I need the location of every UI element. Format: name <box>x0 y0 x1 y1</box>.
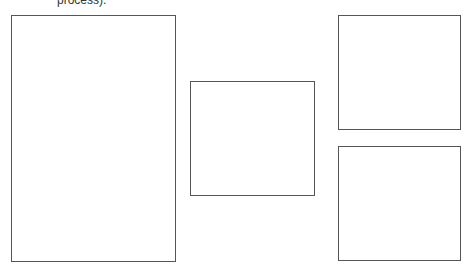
cut-off-text-line: process). <box>57 0 106 7</box>
empty-box-bottom-right <box>338 146 461 261</box>
empty-box-left <box>11 15 176 262</box>
empty-box-middle <box>190 81 315 196</box>
empty-box-top-right <box>338 15 461 130</box>
